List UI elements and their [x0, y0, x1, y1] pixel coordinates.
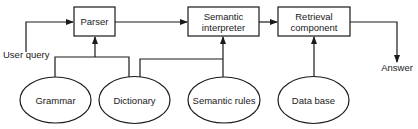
retrieval-component-node: Retrieval component: [278, 7, 350, 36]
semantic-interpreter-node: Semantic interpreter: [188, 7, 259, 36]
retrieval-component-label-line2: component: [290, 22, 337, 33]
parser-node: Parser: [74, 7, 115, 36]
parser-label: Parser: [81, 16, 109, 27]
semantic-rules-node: Semantic rules: [188, 90, 260, 110]
grammar-node: Grammar: [20, 90, 91, 110]
semantic-interpreter-label-line1: Semantic: [204, 11, 244, 22]
user-query-arrow: [26, 22, 73, 52]
user-query-label: User query: [3, 49, 51, 60]
dictionary-to-interpreter-connector: [140, 59, 223, 77]
dictionary-node: Dictionary: [99, 90, 170, 110]
data-base-node: Data base: [278, 90, 349, 110]
dictionary-label: Dictionary: [113, 95, 155, 106]
grammar-dictionary-connector: [55, 57, 129, 77]
retrieval-component-label-line1: Retrieval: [295, 11, 333, 22]
answer-label: Answer: [377, 62, 417, 73]
answer-arrow: [350, 22, 397, 62]
diagram-canvas: Parser Semantic interpreter Retrieval co…: [0, 0, 418, 129]
grammar-label: Grammar: [35, 95, 75, 106]
data-base-label: Data base: [292, 95, 335, 106]
semantic-interpreter-label-line2: interpreter: [202, 22, 245, 33]
semantic-rules-label: Semantic rules: [193, 95, 256, 106]
